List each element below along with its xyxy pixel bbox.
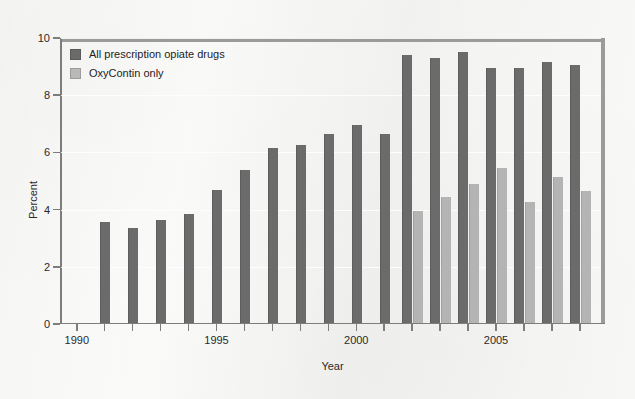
x-axis-tick — [411, 324, 413, 331]
x-axis-tick — [551, 324, 553, 331]
bar-all-prescription-opiate-drugs-1994 — [184, 214, 194, 323]
bar-all-prescription-opiate-drugs-1996 — [240, 170, 250, 323]
x-axis-tick — [76, 324, 78, 331]
y-axis-tick-label: 8 — [44, 89, 50, 101]
x-axis-tick-label: 2005 — [484, 334, 508, 346]
x-axis-tick-label: 1995 — [204, 334, 228, 346]
gridline — [61, 38, 601, 39]
y-axis-tick-label: 4 — [44, 204, 50, 216]
bar-all-prescription-opiate-drugs-1991 — [100, 222, 110, 322]
x-axis-tick — [104, 324, 106, 331]
y-axis-title: Percent — [27, 181, 39, 219]
chart-legend: All prescription opiate drugsOxyContin o… — [70, 48, 225, 86]
legend-item-all: All prescription opiate drugs — [70, 48, 225, 60]
x-axis-tick — [467, 324, 469, 331]
bar-all-prescription-opiate-drugs-1999 — [324, 134, 334, 323]
y-axis-tick-label: 10 — [38, 32, 50, 44]
bar-oxycontin-only-2007 — [553, 177, 563, 323]
bar-all-prescription-opiate-drugs-2005 — [486, 68, 496, 323]
y-axis-tick — [53, 37, 60, 39]
bar-all-prescription-opiate-drugs-2002 — [402, 55, 412, 322]
x-axis-tick — [244, 324, 246, 331]
bar-all-prescription-opiate-drugs-1992 — [128, 228, 138, 322]
bar-all-prescription-opiate-drugs-2001 — [380, 134, 390, 323]
bar-all-prescription-opiate-drugs-1993 — [156, 220, 166, 323]
legend-label: All prescription opiate drugs — [89, 48, 225, 60]
y-axis-tick — [53, 323, 60, 325]
frame-right-border — [601, 38, 605, 324]
x-axis-title: Year — [60, 360, 605, 372]
x-axis-tick — [383, 324, 385, 331]
y-axis-tick-label: 0 — [44, 318, 50, 330]
x-axis-tick-label: 1990 — [65, 334, 89, 346]
bar-all-prescription-opiate-drugs-1998 — [296, 145, 306, 322]
x-axis-tick — [160, 324, 162, 331]
y-axis-tick — [53, 209, 60, 211]
x-axis-tick — [523, 324, 525, 331]
legend-swatch-icon-oxy — [70, 68, 81, 79]
y-axis-tick — [53, 94, 60, 96]
legend-swatch-icon-all — [70, 49, 81, 60]
bar-oxycontin-only-2005 — [497, 168, 507, 322]
bar-chart-figure: Percent 0246810 1990199520002005 Year Al… — [0, 0, 635, 399]
bar-all-prescription-opiate-drugs-2008 — [570, 65, 580, 322]
y-axis-tick-label: 6 — [44, 146, 50, 158]
y-axis-tick — [53, 152, 60, 154]
x-axis-tick — [495, 324, 497, 331]
bar-oxycontin-only-2008 — [581, 191, 591, 323]
bar-all-prescription-opiate-drugs-1995 — [212, 190, 222, 323]
x-axis-tick — [188, 324, 190, 331]
x-axis-tick — [132, 324, 134, 331]
y-axis-tick-label: 2 — [44, 261, 50, 273]
legend-label: OxyContin only — [89, 67, 164, 79]
x-axis-tick — [356, 324, 358, 331]
bar-oxycontin-only-2003 — [441, 197, 451, 323]
x-axis-tick — [579, 324, 581, 331]
bar-oxycontin-only-2004 — [469, 184, 479, 323]
x-axis-tick — [300, 324, 302, 331]
legend-item-oxy: OxyContin only — [70, 67, 225, 79]
bar-all-prescription-opiate-drugs-1997 — [268, 148, 278, 322]
x-axis-tick — [439, 324, 441, 331]
bar-oxycontin-only-2002 — [413, 211, 423, 323]
bar-all-prescription-opiate-drugs-2007 — [542, 62, 552, 322]
x-axis-tick — [272, 324, 274, 331]
y-axis-tick — [53, 266, 60, 268]
x-axis-tick — [216, 324, 218, 331]
x-axis-tick-label: 2000 — [344, 334, 368, 346]
bar-oxycontin-only-2006 — [525, 202, 535, 322]
y-axis-line — [60, 38, 62, 324]
bar-all-prescription-opiate-drugs-2003 — [430, 58, 440, 323]
bar-all-prescription-opiate-drugs-2006 — [514, 68, 524, 323]
bar-all-prescription-opiate-drugs-2000 — [352, 125, 362, 322]
x-axis-tick — [328, 324, 330, 331]
bar-all-prescription-opiate-drugs-2004 — [458, 52, 468, 322]
